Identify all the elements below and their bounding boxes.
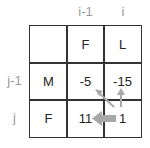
left-arrow-icon — [92, 111, 116, 126]
traceback-arrows — [0, 0, 150, 148]
diagonal-arrow-icon — [95, 89, 114, 107]
up-arrow-icon — [117, 88, 125, 107]
